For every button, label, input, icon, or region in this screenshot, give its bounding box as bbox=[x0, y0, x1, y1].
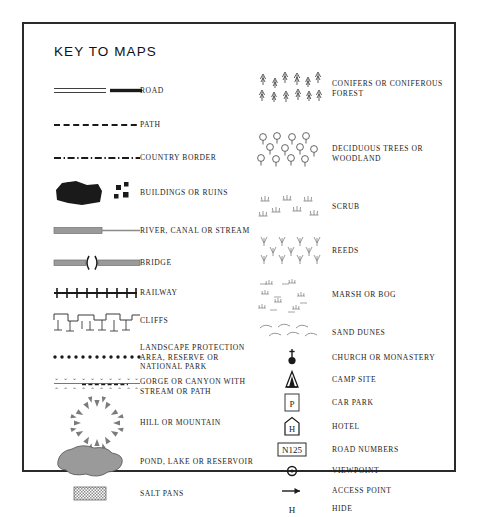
svg-text:⌃: ⌃ bbox=[117, 387, 122, 393]
legend-row-salt-pans[interactable]: SALT PANS bbox=[24, 482, 256, 506]
legend-label: MARSH OR BOG bbox=[332, 290, 456, 300]
road-symbol bbox=[24, 80, 142, 102]
legend-row-scrub[interactable]: SCRUB bbox=[256, 190, 456, 224]
buildings-ruins-symbol bbox=[24, 176, 142, 210]
svg-text:⌄: ⌄ bbox=[117, 375, 122, 381]
scrub-symbol bbox=[256, 190, 328, 224]
legend-row-gorge[interactable]: ⌄⌄ ⌄⌄ ⌄⌄ ⌄⌄ ⌄⌄ ⌃⌃ ⌃⌃ ⌃⌃ ⌃⌃ ⌃⌃ bbox=[24, 372, 256, 402]
path-symbol bbox=[24, 114, 142, 136]
car-park-symbol: P bbox=[256, 390, 328, 416]
legend-label: RIVER, CANAL OR STREAM bbox=[140, 226, 258, 236]
svg-text:⌄: ⌄ bbox=[63, 375, 68, 381]
svg-text:⌄: ⌄ bbox=[99, 375, 104, 381]
legend-label: RAILWAY bbox=[140, 288, 258, 298]
svg-text:⌄: ⌄ bbox=[72, 375, 77, 381]
svg-text:⌄: ⌄ bbox=[108, 375, 113, 381]
legend-label: BRIDGE bbox=[140, 258, 258, 268]
svg-text:⌄: ⌄ bbox=[81, 375, 86, 381]
legend-row-pond-lake[interactable]: POND, LAKE OR RESERVOIR bbox=[24, 439, 256, 485]
legend-label: SCRUB bbox=[332, 202, 456, 212]
page-title: KEY TO MAPS bbox=[54, 44, 157, 59]
legend-label: HILL OR MOUNTAIN bbox=[140, 418, 258, 428]
reeds-symbol bbox=[256, 234, 328, 268]
svg-text:⌄: ⌄ bbox=[126, 375, 131, 381]
railway-symbol bbox=[24, 282, 142, 304]
svg-text:⌃: ⌃ bbox=[72, 387, 77, 393]
legend-label: GORGE OR CANYON WITH STREAM OR PATH bbox=[140, 377, 258, 396]
legend-row-road[interactable]: ROAD bbox=[24, 80, 256, 102]
legend-row-reeds[interactable]: REEDS bbox=[256, 234, 456, 268]
salt-pans-symbol bbox=[24, 482, 142, 506]
conifers-symbol bbox=[256, 68, 328, 110]
legend-label: HOTEL bbox=[332, 422, 456, 432]
svg-text:⌃: ⌃ bbox=[99, 387, 104, 393]
legend-row-hide[interactable]: H HIDE bbox=[256, 498, 456, 517]
legend-label: ROAD NUMBERS bbox=[332, 445, 456, 455]
legend-row-marsh-bog[interactable]: MARSH OR BOG bbox=[256, 276, 456, 314]
cliffs-symbol bbox=[24, 306, 142, 336]
legend-row-landscape-protection[interactable]: LANDSCAPE PROTECTION AREA, RESERVE OR NA… bbox=[24, 344, 256, 370]
legend-row-river[interactable]: RIVER, CANAL OR STREAM bbox=[24, 220, 256, 242]
svg-text:⌃: ⌃ bbox=[108, 387, 113, 393]
church-monastery-symbol bbox=[256, 346, 328, 370]
legend-label: VIEWPOINT bbox=[332, 466, 456, 476]
legend-row-conifers[interactable]: CONIFERS OR CONIFEROUS FOREST bbox=[256, 68, 456, 110]
svg-text:⌃: ⌃ bbox=[81, 387, 86, 393]
bridge-symbol bbox=[24, 251, 142, 275]
car-park-glyph: P bbox=[289, 399, 294, 409]
legend-label: CHURCH OR MONASTERY bbox=[332, 353, 456, 363]
legend-row-cliffs[interactable]: CLIFFS bbox=[24, 306, 256, 336]
legend-label: BUILDINGS OR RUINS bbox=[140, 188, 258, 198]
landscape-protection-symbol bbox=[24, 344, 142, 370]
hide-symbol: H bbox=[256, 498, 328, 517]
legend-label: LANDSCAPE PROTECTION AREA, RESERVE OR NA… bbox=[140, 343, 258, 372]
river-canal-stream-symbol bbox=[24, 220, 142, 242]
legend-row-road-numbers[interactable]: N125 ROAD NUMBERS bbox=[256, 438, 456, 462]
svg-text:⌄: ⌄ bbox=[54, 375, 59, 381]
deciduous-trees-symbol bbox=[256, 132, 328, 176]
viewpoint-symbol bbox=[256, 460, 328, 482]
legend-row-church[interactable]: CHURCH OR MONASTERY bbox=[256, 346, 456, 370]
legend-label: SALT PANS bbox=[140, 489, 258, 499]
sand-dunes-symbol bbox=[256, 320, 328, 346]
svg-text:⌃: ⌃ bbox=[126, 387, 131, 393]
hotel-symbol: H bbox=[256, 414, 328, 440]
legend-label: CAR PARK bbox=[332, 398, 456, 408]
svg-text:⌃: ⌃ bbox=[63, 387, 68, 393]
road-number-glyph: N125 bbox=[282, 445, 302, 455]
legend-label: COUNTRY BORDER bbox=[140, 153, 258, 163]
legend-label: REEDS bbox=[332, 246, 456, 256]
legend-row-viewpoint[interactable]: VIEWPOINT bbox=[256, 460, 456, 482]
svg-text:⌃: ⌃ bbox=[54, 387, 59, 393]
gorge-canyon-symbol: ⌄⌄ ⌄⌄ ⌄⌄ ⌄⌄ ⌄⌄ ⌃⌃ ⌃⌃ ⌃⌃ ⌃⌃ ⌃⌃ bbox=[24, 372, 142, 402]
camp-site-symbol bbox=[256, 368, 328, 392]
svg-text:⌄: ⌄ bbox=[90, 375, 95, 381]
country-border-symbol bbox=[24, 147, 142, 169]
legend-label: CAMP SITE bbox=[332, 375, 456, 385]
svg-text:⌃: ⌃ bbox=[90, 387, 95, 393]
legend-row-railway[interactable]: RAILWAY bbox=[24, 282, 256, 304]
hide-glyph: H bbox=[289, 505, 296, 515]
legend-row-car-park[interactable]: P CAR PARK bbox=[256, 390, 456, 416]
road-numbers-symbol: N125 bbox=[256, 438, 328, 462]
legend-row-camp-site[interactable]: CAMP SITE bbox=[256, 368, 456, 392]
legend-label: POND, LAKE OR RESERVOIR bbox=[140, 457, 258, 467]
pond-lake-reservoir-symbol bbox=[24, 439, 142, 485]
svg-text:⌃: ⌃ bbox=[134, 387, 139, 393]
legend-row-sand-dunes[interactable]: SAND DUNES bbox=[256, 320, 456, 346]
legend-row-deciduous[interactable]: DECIDUOUS TREES OR WOODLAND bbox=[256, 132, 456, 176]
marsh-bog-symbol bbox=[256, 276, 328, 314]
legend-label: DECIDUOUS TREES OR WOODLAND bbox=[332, 144, 456, 163]
legend-label: SAND DUNES bbox=[332, 328, 456, 338]
legend-label: ROAD bbox=[140, 86, 258, 96]
legend-row-path[interactable]: PATH bbox=[24, 114, 256, 136]
svg-text:⌄: ⌄ bbox=[134, 375, 139, 381]
legend-row-buildings[interactable]: BUILDINGS OR RUINS bbox=[24, 176, 256, 210]
legend-label: PATH bbox=[140, 120, 258, 130]
hotel-glyph: H bbox=[289, 424, 295, 434]
legend-label: HIDE bbox=[332, 504, 456, 514]
legend-label: CONIFERS OR CONIFEROUS FOREST bbox=[332, 79, 456, 98]
legend-row-bridge[interactable]: BRIDGE bbox=[24, 251, 256, 275]
legend-row-hotel[interactable]: H HOTEL bbox=[256, 414, 456, 440]
legend-row-country-border[interactable]: COUNTRY BORDER bbox=[24, 147, 256, 169]
